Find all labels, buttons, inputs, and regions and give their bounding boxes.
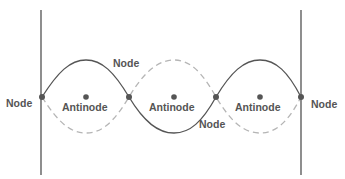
antinode-dot-2: [171, 94, 177, 100]
antinode-dot-1: [83, 94, 89, 100]
standing-wave-diagram: Node Node Node Node Antinode Antinode An…: [0, 0, 345, 179]
node-label-left: Node: [6, 97, 32, 109]
antinode-label-1: Antinode: [62, 101, 108, 113]
diagram-canvas: Node Node Node Node Antinode Antinode An…: [0, 0, 345, 179]
node-dot-2: [126, 94, 132, 100]
node-dot-3: [213, 94, 219, 100]
node-dot-1: [39, 94, 45, 100]
node-dot-4: [298, 94, 304, 100]
node-label-bottom: Node: [199, 118, 225, 130]
node-label-top: Node: [113, 57, 139, 69]
node-label-right: Node: [311, 98, 337, 110]
antinode-label-3: Antinode: [235, 101, 281, 113]
antinode-dot-3: [257, 94, 263, 100]
antinode-label-2: Antinode: [149, 101, 195, 113]
